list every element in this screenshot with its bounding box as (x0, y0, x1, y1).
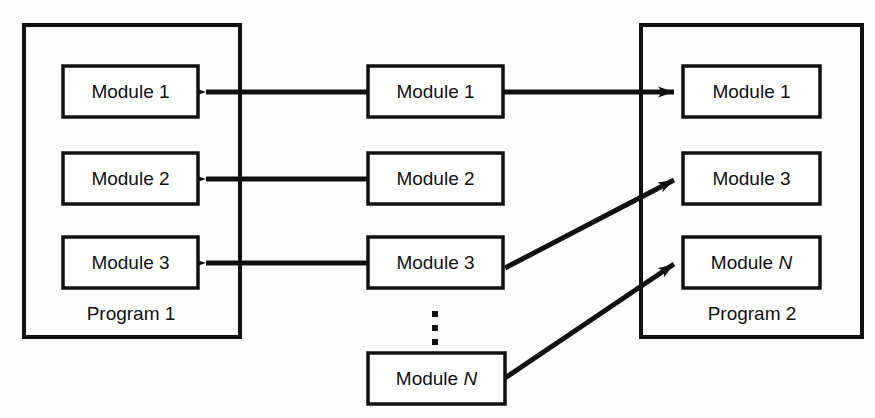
right-module-n-italic: N (778, 252, 792, 273)
connector-group (206, 92, 674, 378)
library-module-n-italic: N (463, 368, 477, 389)
module-reuse-diagram: Module 1 Module 2 Module 3 Program 1 Mod… (0, 0, 875, 418)
connector-libraryn-to-rightn (505, 264, 674, 378)
library-module-3-label: Module 3 (396, 252, 474, 273)
right-module-n-label: Module N (711, 252, 793, 273)
right-module-n-prefix: Module (711, 252, 779, 273)
library-module-1-label: Module 1 (396, 81, 474, 102)
library-module-n-label: Module N (396, 368, 478, 389)
left-program-label: Program 1 (87, 303, 176, 324)
diagram-canvas: Module 1 Module 2 Module 3 Program 1 Mod… (0, 0, 875, 418)
library-module-n-prefix: Module (396, 368, 464, 389)
left-module-3-label: Module 3 (91, 252, 169, 273)
right-program-label: Program 2 (708, 303, 797, 324)
vertical-ellipsis-icon (432, 311, 438, 345)
library-module-2-label: Module 2 (396, 168, 474, 189)
connector-library3-to-right3 (505, 180, 674, 268)
left-module-2-label: Module 2 (91, 168, 169, 189)
right-module-3-label: Module 3 (712, 168, 790, 189)
library-module-group: Module 1 Module 2 Module 3 Module N (368, 66, 505, 404)
right-module-1-label: Module 1 (712, 81, 790, 102)
left-module-1-label: Module 1 (91, 81, 169, 102)
